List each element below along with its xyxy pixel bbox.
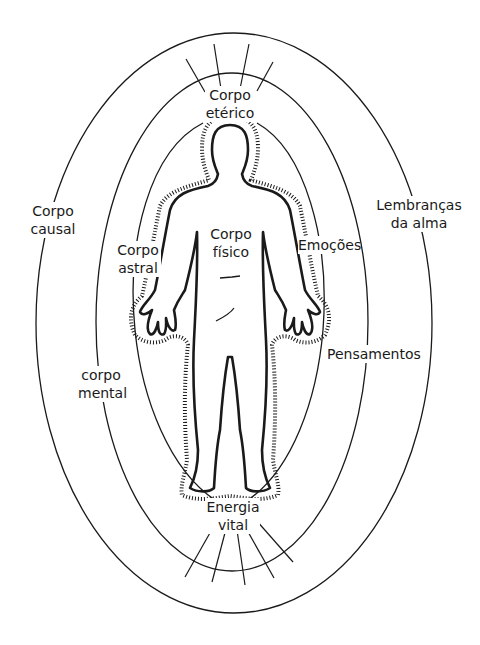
label-corpo-mental: corpo mental <box>78 366 124 402</box>
label-line: causal <box>28 220 78 238</box>
label-line: Emoções <box>298 236 356 254</box>
label-line: Corpo <box>115 241 161 259</box>
label-corpo-astral: Corpo astral <box>115 241 161 277</box>
label-corpo-eterico: Corpo etérico <box>205 86 255 122</box>
label-line: Corpo <box>28 202 78 220</box>
label-line: mental <box>78 384 124 402</box>
label-line: corpo <box>78 366 124 384</box>
physical-body-outline <box>140 125 320 491</box>
label-line: da alma <box>376 214 462 232</box>
label-lembrancas-da-alma: Lembranças da alma <box>376 196 462 232</box>
label-line: vital <box>206 516 260 534</box>
top-rays <box>186 44 273 92</box>
label-line: físico <box>208 243 254 261</box>
label-emocoes: Emoções <box>298 236 356 254</box>
label-line: Pensamentos <box>327 345 413 363</box>
label-corpo-causal: Corpo causal <box>28 202 78 238</box>
label-corpo-fisico: Corpo físico <box>208 225 254 261</box>
groin-mark <box>216 308 234 321</box>
label-pensamentos: Pensamentos <box>327 345 413 363</box>
label-line: Corpo <box>208 225 254 243</box>
label-line: etérico <box>205 104 255 122</box>
label-line: Corpo <box>205 86 255 104</box>
navel-mark <box>220 276 240 278</box>
label-line: Energia <box>206 498 260 516</box>
middle-ellipse <box>96 73 368 571</box>
label-line: Lembranças <box>376 196 462 214</box>
aura-diagram: Corpo etérico Corpo causal Lembranças da… <box>0 0 480 645</box>
label-energia-vital: Energia vital <box>206 498 260 534</box>
label-line: astral <box>115 259 161 277</box>
